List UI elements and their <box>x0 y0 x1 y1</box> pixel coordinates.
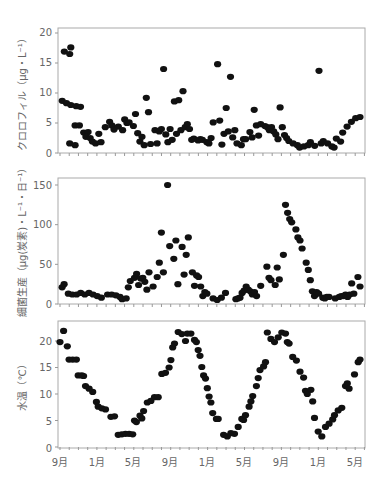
data-point <box>76 122 83 128</box>
data-point <box>249 134 256 140</box>
data-point <box>154 140 161 146</box>
data-point <box>125 284 132 290</box>
data-point <box>141 142 148 148</box>
data-point <box>158 126 165 132</box>
data-point <box>172 237 179 243</box>
y-tick-label: 15 <box>39 57 52 68</box>
data-point <box>216 118 223 124</box>
data-point <box>77 104 84 110</box>
y-tick-label: 0 <box>46 299 52 310</box>
data-point <box>351 371 358 377</box>
x-tick-label: 5月 <box>125 457 141 468</box>
data-point <box>253 293 260 299</box>
data-point <box>98 295 105 301</box>
data-point <box>73 357 80 363</box>
panel-frame <box>58 178 365 304</box>
data-point <box>130 123 137 129</box>
data-point <box>246 404 253 410</box>
data-point <box>143 287 150 293</box>
data-point <box>215 416 222 422</box>
data-point <box>284 210 291 216</box>
x-tick-label: 9月 <box>52 457 68 468</box>
data-point <box>67 44 74 50</box>
data-point <box>348 280 355 286</box>
data-point <box>264 329 271 335</box>
data-point <box>129 431 136 437</box>
x-axis-labels: 9月 1月 5月 9月 1月 5月 9月 1月 5月 <box>52 457 363 468</box>
data-point <box>164 182 171 188</box>
data-point <box>203 291 210 297</box>
data-point <box>198 364 205 370</box>
data-point <box>303 260 310 266</box>
data-point <box>102 406 109 412</box>
data-point <box>311 143 318 149</box>
x-tick-label: 5月 <box>347 457 363 468</box>
y-axis-title: 細菌生産（μg(炭素)・L⁻¹・日⁻¹） <box>16 163 28 318</box>
data-point <box>280 252 287 258</box>
data-point <box>64 343 71 349</box>
data-point <box>169 137 176 143</box>
data-point <box>222 290 229 296</box>
data-point <box>282 202 289 208</box>
ticks <box>55 185 364 307</box>
data-point <box>66 51 73 57</box>
data-point <box>356 114 363 120</box>
data-point <box>191 283 198 289</box>
data-point <box>344 380 351 386</box>
y-tick-label: 20 <box>39 27 52 38</box>
data-point <box>257 283 264 289</box>
three-panel-scatter-chart: 20 15 10 5 0 クロロフィル（μg・L⁻¹） 150 100 50 0… <box>0 0 386 493</box>
data-point <box>293 358 300 364</box>
y-tick-label: 15 <box>39 362 52 373</box>
data-point <box>251 107 258 113</box>
data-point <box>338 405 345 411</box>
data-point <box>154 274 161 280</box>
data-point <box>155 394 162 400</box>
data-point <box>262 359 269 365</box>
data-point <box>214 61 221 67</box>
y-axis-title: 水温（℃） <box>17 359 28 410</box>
data-point <box>296 237 303 243</box>
data-point <box>274 136 281 142</box>
data-point <box>72 142 79 148</box>
data-point <box>166 364 173 370</box>
data-point <box>56 339 63 345</box>
data-point <box>186 126 193 132</box>
data-point <box>140 408 147 414</box>
data-point <box>231 127 238 133</box>
data-point <box>156 260 163 266</box>
data-point <box>80 373 87 379</box>
data-point <box>238 142 245 148</box>
data-point <box>183 252 190 258</box>
data-point <box>135 282 142 288</box>
data-point <box>147 141 154 147</box>
data-point <box>193 339 200 345</box>
data-point <box>150 283 157 289</box>
data-point <box>132 111 139 117</box>
data-point <box>160 269 167 275</box>
data-points <box>56 328 363 440</box>
data-point <box>167 126 174 132</box>
data-point <box>242 136 249 142</box>
data-point <box>292 226 299 232</box>
data-point <box>195 347 202 353</box>
data-point <box>182 338 189 344</box>
data-point <box>288 219 295 225</box>
data-point <box>209 410 216 416</box>
data-point <box>255 375 262 381</box>
data-point <box>97 139 104 145</box>
y-axis-title: クロロフィル（μg・L⁻¹） <box>17 33 28 151</box>
panel-water-temperature: 20 15 10 5 0 水温（℃） <box>17 321 365 454</box>
data-point <box>305 267 312 273</box>
data-point <box>227 74 234 80</box>
data-point <box>166 243 173 249</box>
y-tick-label: 50 <box>39 259 52 270</box>
data-point <box>158 230 165 236</box>
data-point <box>95 131 102 137</box>
y-tick-label: 10 <box>39 87 52 98</box>
data-point <box>356 283 363 289</box>
data-point <box>145 269 152 275</box>
data-point <box>350 291 357 297</box>
data-point <box>229 134 236 140</box>
x-tick-label: 5月 <box>236 457 252 468</box>
